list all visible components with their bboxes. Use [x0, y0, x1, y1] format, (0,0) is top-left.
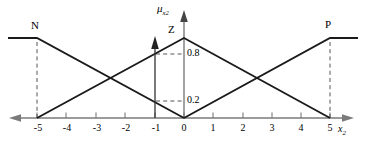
- set-label-z: Z: [168, 24, 175, 35]
- x-tick-label-minus1: -1: [147, 123, 165, 133]
- input-value-arrowhead: [151, 36, 159, 49]
- x-tick-label-two: 2: [236, 123, 250, 133]
- value-label-low: 0.2: [187, 95, 200, 105]
- x-axis-left-arrowhead: [9, 114, 21, 122]
- x-tick-label-one: 1: [206, 123, 220, 133]
- input-value-arrow: [151, 36, 159, 118]
- x-tick-label-zero: 0: [177, 123, 191, 133]
- y-axis-title: μx2: [157, 3, 169, 17]
- set-label-n: N: [31, 20, 39, 31]
- membership-function-figure: N Z P 0.8 0.2 μx2 x2 -5 -4 -3 -2 -1 0 1 …: [0, 0, 365, 144]
- set-label-p: P: [325, 19, 331, 30]
- curve-p: [184, 38, 358, 118]
- x-tick-label-five: 5: [323, 123, 337, 133]
- x-tick-label-minus5: -5: [29, 123, 47, 133]
- x-tick-label-minus4: -4: [58, 123, 76, 133]
- x-tick-label-four: 4: [294, 123, 308, 133]
- x-axis-right-arrowhead: [342, 114, 354, 122]
- x-tick-label-three: 3: [265, 123, 279, 133]
- x-axis-title-sub: 2: [342, 129, 346, 137]
- x-tick-label-minus2: -2: [117, 123, 135, 133]
- x-tick-label-minus3: -3: [88, 123, 106, 133]
- x-axis: [9, 114, 354, 122]
- dashed-leaders: [156, 54, 182, 101]
- y-axis-title-sub-2: 2: [166, 10, 169, 16]
- x-axis-title: x2: [338, 124, 346, 137]
- value-label-high: 0.8: [187, 48, 200, 58]
- curve-n: [8, 38, 184, 118]
- y-axis-arrowhead: [180, 10, 188, 22]
